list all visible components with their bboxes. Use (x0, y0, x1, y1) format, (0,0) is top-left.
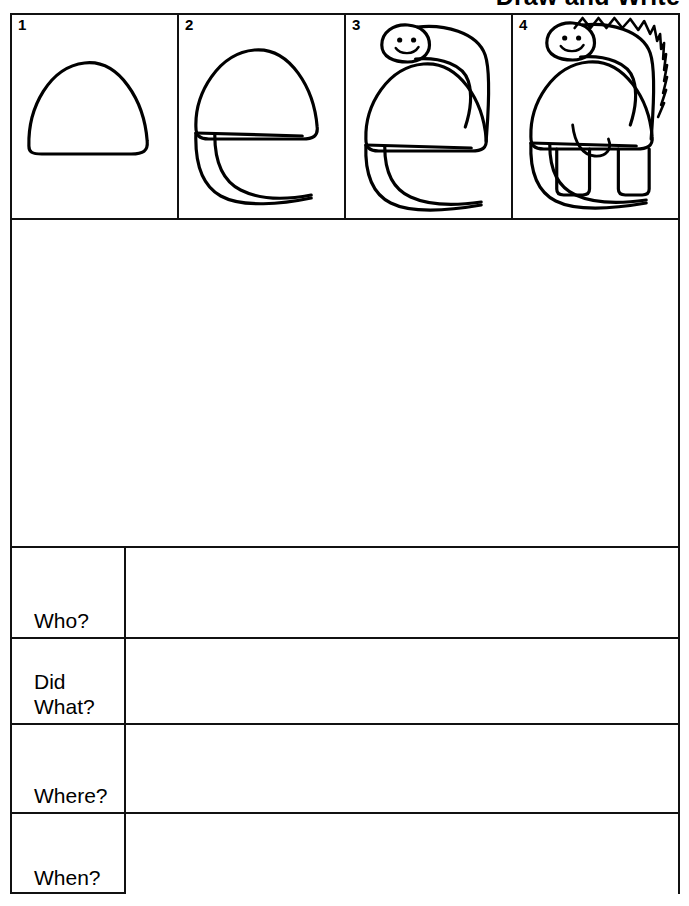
drawing-steps-strip: 1 2 3 (12, 15, 678, 218)
question-label-cell-when: When? (12, 814, 126, 894)
question-label-cell-where: Where? (12, 725, 126, 812)
answer-line-who[interactable] (126, 548, 678, 637)
answer-line-where[interactable] (126, 725, 678, 812)
dinosaur-step-1-illustration (12, 15, 177, 218)
dinosaur-step-2-illustration (179, 15, 344, 218)
question-row-did-what: Did What? (12, 639, 678, 725)
drawing-step-panel-2: 2 (179, 15, 346, 218)
answer-line-when[interactable] (126, 814, 678, 894)
step-number-2: 2 (185, 17, 193, 33)
page-title-strip: Draw and Write (0, 0, 689, 11)
question-row-where: Where? (12, 725, 678, 814)
question-table: Who? Did What? Where? When? (12, 546, 678, 892)
answer-line-did-what[interactable] (126, 639, 678, 723)
question-label-where: Where? (34, 783, 108, 808)
question-row-when: When? (12, 814, 678, 894)
drawing-step-panel-3: 3 (346, 15, 513, 218)
question-label-cell-did-what: Did What? (12, 639, 126, 723)
question-label-did-what: Did What? (34, 669, 95, 719)
drawing-step-panel-1: 1 (12, 15, 179, 218)
page-title: Draw and Write (496, 0, 680, 10)
drawing-area[interactable] (12, 220, 678, 546)
dinosaur-step-3-illustration (346, 15, 511, 218)
question-label-cell-who: Who? (12, 548, 126, 637)
question-row-who: Who? (12, 548, 678, 639)
question-label-when: When? (34, 865, 101, 890)
step-number-3: 3 (352, 17, 360, 33)
question-label-who: Who? (34, 608, 89, 633)
drawing-step-panel-4: 4 (513, 15, 678, 218)
worksheet-frame: 1 2 3 (10, 13, 680, 894)
step-number-1: 1 (18, 17, 26, 33)
dinosaur-step-4-illustration (513, 15, 678, 218)
step-number-4: 4 (519, 17, 527, 33)
